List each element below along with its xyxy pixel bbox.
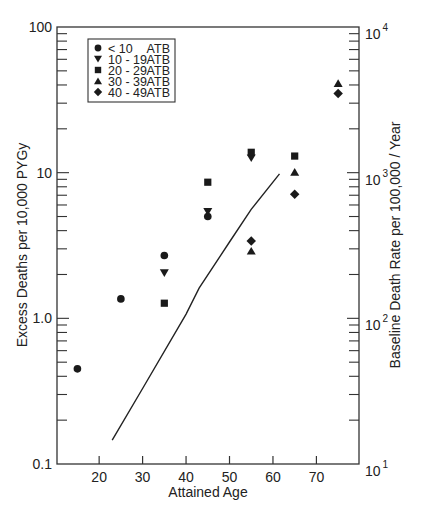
square-marker [291, 152, 298, 159]
series-diamond [247, 89, 343, 246]
triangle-up-marker [334, 79, 343, 87]
series-circle [74, 213, 212, 373]
circle-marker [161, 252, 169, 260]
baseline-curve [112, 174, 279, 440]
y2-tick-label: 103 [365, 168, 389, 188]
y-tick-label: 10 [36, 165, 52, 181]
diamond-marker [247, 236, 256, 245]
square-marker [161, 300, 168, 307]
triangle-up-marker [247, 247, 256, 255]
legend: < 10ATB10 - 19ATB20 - 29ATB30 - 39ATB40 … [88, 39, 175, 102]
series-square [161, 149, 299, 307]
square-marker [95, 67, 101, 73]
y2-tick-label: 102 [365, 313, 389, 333]
legend-label: 40 - 49 [108, 86, 147, 100]
square-marker [248, 149, 255, 156]
y2-axis-title: Baseline Death Rate per 100,000 / Year [387, 121, 403, 368]
circle-marker [117, 295, 125, 303]
chart: 2030405060700.11.010100101102103104 < 10… [0, 0, 421, 513]
data-points [74, 79, 343, 372]
x-tick-label: 20 [91, 469, 107, 485]
square-marker [204, 179, 211, 186]
circle-marker [74, 365, 82, 373]
y2-tick-label: 104 [365, 22, 389, 42]
x-tick-label: 40 [178, 469, 194, 485]
x-axis-title: Attained Age [168, 484, 248, 500]
y2-tick-label: 101 [365, 459, 389, 479]
diamond-marker [290, 190, 299, 199]
triangle-up-marker [290, 168, 299, 176]
diamond-marker [333, 89, 342, 98]
x-tick-label: 30 [135, 469, 151, 485]
y-axis-title: Excess Deaths per 10,000 PYGy [14, 143, 30, 348]
x-tick-label: 60 [265, 469, 281, 485]
tick-labels: 2030405060700.11.010100101102103104 [29, 19, 389, 485]
circle-marker [95, 45, 102, 52]
x-tick-label: 70 [309, 469, 325, 485]
legend-unit: ATB [147, 86, 170, 100]
y-tick-label: 1.0 [33, 310, 53, 326]
triangle-down-marker [160, 269, 169, 277]
y-tick-label: 0.1 [33, 456, 53, 472]
y-tick-label: 100 [29, 19, 53, 35]
series-triangle-up [247, 79, 343, 254]
baseline-death-rate-line [112, 174, 279, 440]
x-tick-label: 50 [222, 469, 238, 485]
